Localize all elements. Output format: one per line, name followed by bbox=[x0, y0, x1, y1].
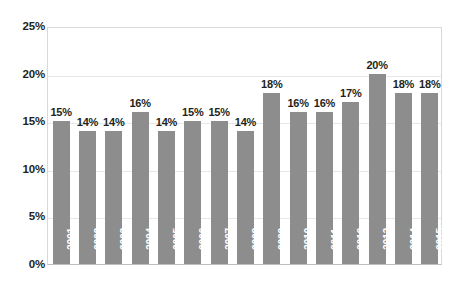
bar[interactable]: 2001 bbox=[53, 121, 70, 264]
bar-group[interactable]: 200514% bbox=[158, 26, 175, 264]
bar-year-label-text: 2015 bbox=[435, 227, 446, 249]
bar-year-label: 2010 bbox=[290, 216, 307, 260]
bar[interactable]: 2011 bbox=[316, 112, 333, 264]
bar[interactable]: 2014 bbox=[395, 93, 412, 264]
bar-group[interactable]: 200814% bbox=[237, 26, 254, 264]
bar-year-label-text: 2006 bbox=[198, 227, 209, 249]
bar-year-label-text: 2011 bbox=[330, 228, 341, 250]
bar-year-label: 2001 bbox=[53, 216, 70, 260]
bar[interactable]: 2013 bbox=[369, 74, 386, 264]
y-axis-tick-label: 20% bbox=[5, 69, 45, 81]
bar-group[interactable]: 201217% bbox=[342, 26, 359, 264]
bar[interactable]: 2010 bbox=[290, 112, 307, 264]
bar-year-label: 2008 bbox=[237, 216, 254, 260]
bar-group[interactable]: 201016% bbox=[290, 26, 307, 264]
bar[interactable]: 2009 bbox=[263, 93, 280, 264]
bar-group[interactable]: 200416% bbox=[132, 26, 149, 264]
y-axis-tick-label: 25% bbox=[5, 21, 45, 33]
bar-year-label: 2011 bbox=[316, 216, 333, 260]
bar-chart: 0%5%10%15%20%25% 200115%200214%200314%20… bbox=[0, 0, 467, 285]
bar-value-label: 16% bbox=[307, 98, 342, 109]
bar-year-label: 2003 bbox=[105, 216, 122, 260]
bar-year-label-text: 2008 bbox=[251, 227, 262, 249]
bar-year-label-text: 2002 bbox=[93, 227, 104, 249]
bar-group[interactable]: 200715% bbox=[211, 26, 228, 264]
bar[interactable]: 2008 bbox=[237, 131, 254, 264]
bar-year-label: 2015 bbox=[421, 216, 438, 260]
bar-year-label: 2002 bbox=[79, 216, 96, 260]
bar-year-label: 2014 bbox=[395, 216, 412, 260]
bar-group[interactable]: 200214% bbox=[79, 26, 96, 264]
bar-group[interactable]: 200115% bbox=[53, 26, 70, 264]
bar-year-label-text: 2004 bbox=[145, 227, 156, 249]
bar-group[interactable]: 201116% bbox=[316, 26, 333, 264]
bar-year-label: 2005 bbox=[158, 216, 175, 260]
bar-year-label-text: 2010 bbox=[303, 227, 314, 249]
bar-value-label: 16% bbox=[123, 98, 158, 109]
bar-value-label: 14% bbox=[96, 117, 131, 128]
bar-group[interactable]: 201320% bbox=[369, 26, 386, 264]
bar-year-label-text: 2003 bbox=[119, 227, 130, 249]
bar-group[interactable]: 200615% bbox=[184, 26, 201, 264]
bar-value-label: 17% bbox=[333, 88, 368, 99]
bar[interactable]: 2002 bbox=[79, 131, 96, 264]
bar[interactable]: 2006 bbox=[184, 121, 201, 264]
bar-year-label: 2006 bbox=[184, 216, 201, 260]
bar-year-label: 2004 bbox=[132, 216, 149, 260]
bar-year-label-text: 2013 bbox=[382, 227, 393, 249]
bar-year-label-text: 2007 bbox=[224, 227, 235, 249]
bar-value-label: 18% bbox=[254, 79, 289, 90]
bar-group[interactable]: 200918% bbox=[263, 26, 280, 264]
bar[interactable]: 2005 bbox=[158, 131, 175, 264]
plot-area: 200115%200214%200314%200416%200514%20061… bbox=[47, 27, 442, 265]
bar-group[interactable]: 201418% bbox=[395, 26, 412, 264]
bar-value-label: 14% bbox=[149, 117, 184, 128]
bar-year-label-text: 2005 bbox=[172, 227, 183, 249]
bar-group[interactable]: 200314% bbox=[105, 26, 122, 264]
bar-year-label-text: 2012 bbox=[356, 227, 367, 249]
bar[interactable]: 2007 bbox=[211, 121, 228, 264]
bar-year-label-text: 2014 bbox=[409, 227, 420, 249]
bar[interactable]: 2012 bbox=[342, 102, 359, 264]
y-axis-tick-label: 5% bbox=[5, 212, 45, 224]
bar-year-label: 2007 bbox=[211, 216, 228, 260]
bar[interactable]: 2015 bbox=[421, 93, 438, 264]
bar-year-label: 2012 bbox=[342, 216, 359, 260]
bar[interactable]: 2004 bbox=[132, 112, 149, 264]
y-axis-tick-label: 0% bbox=[5, 259, 45, 271]
bar-value-label: 20% bbox=[360, 60, 395, 71]
bar-year-label: 2009 bbox=[263, 216, 280, 260]
bar-year-label: 2013 bbox=[369, 216, 386, 260]
y-axis-tick-label: 10% bbox=[5, 164, 45, 176]
bar-value-label: 18% bbox=[412, 79, 447, 90]
bar-value-label: 14% bbox=[228, 117, 263, 128]
bar-year-label-text: 2001 bbox=[66, 227, 77, 249]
bar[interactable]: 2003 bbox=[105, 131, 122, 264]
bar-group[interactable]: 201518% bbox=[421, 26, 438, 264]
bar-year-label-text: 2009 bbox=[277, 227, 288, 249]
y-axis-tick-label: 15% bbox=[5, 116, 45, 128]
